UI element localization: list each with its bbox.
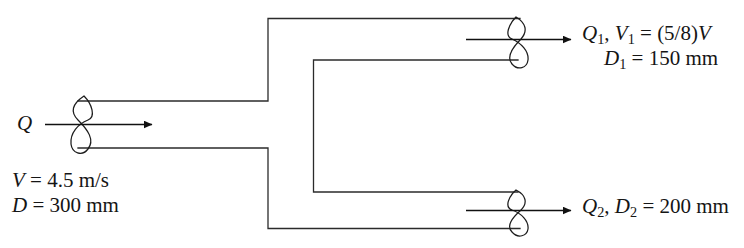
top-branch-diameter-equals: =: [632, 46, 644, 70]
top-branch-diameter-subscript: 1: [619, 56, 626, 72]
bottom-branch-diameter-value: 200: [659, 194, 691, 218]
top-branch-velocity-reference: V: [698, 21, 711, 45]
top-branch-line2: D1 = 150 mm: [582, 46, 718, 71]
top-branch-label: Q1, V1 = (5/8)V D1 = 150 mm: [582, 21, 718, 71]
inlet-velocity-unit: m/s: [79, 168, 109, 192]
bottom-branch-diameter-subscript: 2: [630, 204, 637, 220]
top-branch-velocity-expression: (5/8): [657, 21, 698, 45]
inlet-diameter-line: D = 300 mm: [12, 193, 119, 218]
top-branch-flow-symbol: Q: [582, 21, 597, 45]
bottom-branch-diameter-symbol: D: [615, 194, 630, 218]
outer-wall-lower: [78, 148, 520, 229]
inlet-conditions-label: V = 4.5 m/s D = 300 mm: [12, 168, 119, 218]
top-branch-separator: ,: [604, 21, 615, 45]
top-branch-line1: Q1, V1 = (5/8)V: [582, 21, 718, 46]
pipe-branching-diagram: Q V = 4.5 m/s D = 300 mm Q1, V1 = (5/8)V…: [0, 0, 744, 248]
inlet-velocity-line: V = 4.5 m/s: [12, 168, 119, 193]
bottom-branch-flow-symbol: Q: [582, 194, 597, 218]
top-branch-velocity-equals: =: [640, 21, 652, 45]
inlet-diameter-unit: mm: [86, 193, 119, 217]
inlet-velocity-value: 4.5: [47, 168, 73, 192]
inlet-flow-symbol: Q: [17, 111, 32, 135]
inlet-flow-label: Q: [17, 111, 32, 136]
bottom-branch-separator: ,: [604, 194, 615, 218]
bottom-branch-diameter-unit: mm: [696, 194, 729, 218]
inlet-velocity-symbol: V: [12, 168, 25, 192]
top-branch-diameter-symbol: D: [604, 46, 619, 70]
top-branch-velocity-subscript: 1: [628, 31, 635, 47]
top-branch-velocity-symbol: V: [615, 21, 628, 45]
bottom-branch-flow-subscript: 2: [597, 204, 604, 220]
inlet-diameter-symbol: D: [12, 193, 27, 217]
inner-wall-divider: [314, 60, 519, 192]
top-branch-diameter-value: 150: [649, 46, 681, 70]
top-branch-diameter-unit: mm: [685, 46, 718, 70]
inlet-diameter-value: 300: [50, 193, 82, 217]
bottom-branch-diameter-equals: =: [642, 194, 654, 218]
inlet-velocity-equals: =: [30, 168, 42, 192]
inlet-diameter-equals: =: [32, 193, 44, 217]
top-branch-flow-subscript: 1: [597, 31, 604, 47]
bottom-branch-label: Q2, D2 = 200 mm: [582, 194, 729, 219]
